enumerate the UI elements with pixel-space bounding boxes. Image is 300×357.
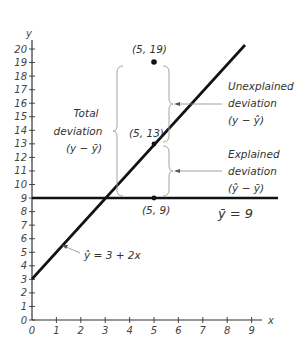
arrow-head-icon: [174, 169, 180, 173]
y-tick-label: 8: [21, 206, 27, 217]
explained-deviation-bracket: [163, 146, 173, 196]
x-tick-label: 6: [175, 325, 181, 336]
y-tick-label: 12: [14, 152, 27, 163]
y-tick-label: 0: [21, 315, 27, 326]
point-label-5-9: (5, 9): [142, 204, 170, 216]
y-tick-label: 11: [14, 165, 27, 176]
y-tick-label: 4: [21, 260, 27, 271]
point-label-5-13: (5, 13): [129, 127, 164, 139]
y-tick-label: 18: [14, 71, 27, 82]
y-tick-label: 3: [21, 274, 27, 285]
x-tick-label: 8: [224, 325, 230, 336]
unexplained-label-2: deviation: [228, 97, 277, 109]
unexplained-label-3: (y − ŷ): [228, 114, 264, 126]
y-tick-label: 2: [21, 287, 27, 298]
y-tick-label: 14: [14, 125, 27, 136]
explained-label-1: Explained: [228, 148, 280, 160]
y-tick-label: 10: [14, 179, 27, 190]
arrow-head-icon: [174, 102, 180, 106]
total-deviation-label-1: Total: [73, 107, 98, 119]
unexplained-label-1: Unexplained: [228, 80, 294, 92]
data-point-5-19: [151, 59, 157, 65]
x-tick-label: 5: [151, 325, 157, 336]
y-tick-label: 5: [21, 247, 27, 258]
y-tick-label: 19: [14, 57, 27, 68]
point-label-5-19: (5, 19): [132, 43, 167, 55]
y-tick-label: 17: [14, 84, 27, 95]
y-tick-label: 15: [14, 111, 27, 122]
y-tick-label: 9: [21, 193, 27, 204]
regression-deviation-chart: 01234567891011121314151617181920 0123456…: [0, 0, 300, 357]
y-tick-label: 6: [21, 233, 27, 244]
y-tick-label: 7: [21, 220, 28, 231]
x-axis-label: x: [267, 315, 274, 326]
x-tick-label: 7: [200, 325, 207, 336]
data-point-5-13: [152, 142, 157, 147]
x-tick-label: 0: [29, 325, 35, 336]
x-tick-label: 1: [53, 325, 59, 336]
y-tick-label: 16: [14, 98, 27, 109]
x-tick-label: 9: [248, 325, 254, 336]
y-tick-label: 20: [14, 44, 27, 55]
total-deviation-bracket: [113, 66, 123, 196]
explained-label-2: deviation: [228, 165, 277, 177]
y-axis-label: y: [25, 28, 33, 39]
regression-line-label: ŷ = 3 + 2x: [83, 249, 142, 261]
mean-line-label: ȳ = 9: [217, 206, 253, 221]
y-tick-label: 13: [14, 138, 27, 149]
total-deviation-label-3: (y − ȳ): [66, 142, 102, 154]
x-tick-label: 2: [78, 325, 84, 336]
y-tick-label: 1: [21, 301, 27, 312]
x-tick-label: 3: [102, 325, 108, 336]
regression-line: [32, 45, 245, 279]
data-point-5-9: [152, 196, 157, 201]
total-deviation-label-2: deviation: [54, 125, 103, 137]
x-tick-label: 4: [126, 325, 132, 336]
explained-label-3: (ŷ − ȳ): [228, 182, 264, 194]
